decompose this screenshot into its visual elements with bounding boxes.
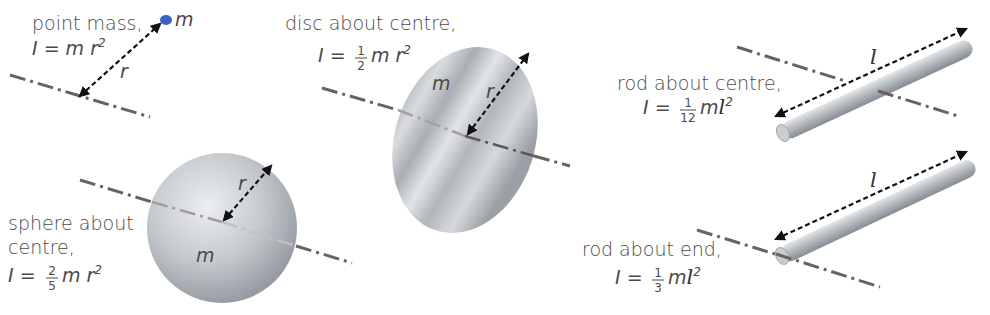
sphere-axis-right [296, 246, 352, 263]
rod-end-formula: I = [615, 266, 643, 288]
point-mass-dot [160, 15, 172, 25]
point-mass-group: point mass, I = m r2 m r [10, 8, 194, 117]
svg-text:ml2: ml2 [668, 265, 701, 289]
svg-text:m r2: m r2 [371, 43, 411, 66]
sphere-label-line1: sphere about [8, 212, 134, 234]
length-arrow [776, 152, 966, 239]
sphere-label-line2: centre, [8, 236, 75, 258]
radius-label: r [486, 80, 495, 102]
radius-label: r [120, 60, 129, 82]
svg-text:3: 3 [654, 281, 662, 295]
rod-centre-axis-front [878, 91, 958, 116]
rod-end-shape [778, 157, 978, 264]
rod-centre-group: l rod about centre, I = 1 12 ml2 [617, 29, 975, 144]
mass-label: m [432, 72, 451, 94]
svg-text:1: 1 [357, 44, 365, 58]
rod-centre-label: rod about centre, [617, 72, 782, 94]
rod-centre-shape [779, 37, 975, 141]
moment-of-inertia-diagram: point mass, I = m r2 m r r m sphere abou… [0, 0, 990, 315]
length-label: l [870, 168, 877, 192]
length-arrow [776, 29, 966, 116]
disc-axis-left [322, 88, 398, 110]
rod-centre-formula: I = [643, 96, 671, 118]
mass-label: m [196, 244, 215, 266]
disc-axis-right [534, 156, 570, 166]
svg-text:m r2: m r2 [62, 263, 102, 286]
svg-text:1: 1 [684, 96, 692, 110]
svg-text:1: 1 [654, 266, 662, 280]
mass-label: m [175, 8, 194, 30]
disc-group: disc about centre, I = 1 2 m r2 m r [285, 12, 570, 252]
point-mass-formula: I = m r2 [32, 36, 106, 59]
svg-text:5: 5 [48, 279, 56, 293]
svg-text:2: 2 [357, 59, 365, 73]
rod-end-group: l rod about end, I = 1 3 ml2 [582, 152, 979, 295]
sphere-group: r m sphere about centre, I = 2 5 m r2 [8, 153, 352, 303]
svg-text:ml2: ml2 [700, 95, 733, 119]
point-mass-label: point mass, [32, 12, 142, 34]
disc-label: disc about centre, [285, 12, 456, 34]
svg-text:2: 2 [48, 264, 56, 278]
length-label: l [870, 45, 877, 69]
radius-label: r [238, 172, 247, 194]
rod-end-label: rod about end, [582, 238, 722, 260]
svg-text:12: 12 [680, 111, 695, 125]
sphere-formula: I = [8, 264, 36, 286]
sphere-axis-left [80, 180, 152, 202]
sphere-shape [147, 153, 297, 303]
disc-formula: I = [318, 44, 346, 66]
